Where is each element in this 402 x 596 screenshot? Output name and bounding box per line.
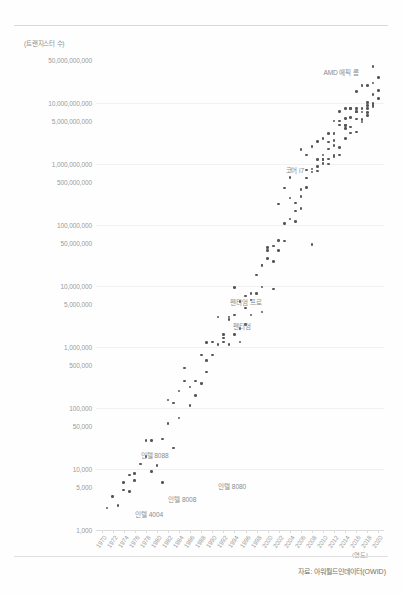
data-point: [300, 195, 303, 198]
data-point: [361, 111, 364, 114]
data-point: [189, 386, 192, 389]
tick-mark: [290, 530, 291, 533]
data-point: [128, 490, 131, 493]
data-point: [228, 343, 231, 346]
data-point: [355, 111, 358, 114]
data-point: [106, 507, 109, 510]
x-axis-tick-label: 2006: [293, 534, 306, 549]
data-point: [333, 120, 336, 123]
chart-annotation: 펜티엄: [233, 321, 251, 331]
data-point: [233, 333, 236, 336]
x-axis-tick-label: 1974: [116, 534, 129, 549]
data-point: [283, 187, 286, 190]
data-point: [311, 243, 314, 246]
data-point: [327, 132, 330, 135]
tick-mark: [356, 530, 357, 533]
tick-mark: [135, 530, 136, 533]
data-point: [366, 107, 369, 110]
x-axis-tick-label: 2000: [260, 534, 273, 549]
data-point: [311, 145, 314, 148]
data-point: [294, 210, 297, 213]
data-point: [372, 104, 375, 107]
data-point: [366, 114, 369, 117]
data-point: [333, 132, 336, 135]
data-point: [272, 260, 275, 263]
gridline: [96, 103, 384, 104]
data-point: [377, 89, 380, 92]
data-point: [377, 76, 380, 79]
data-point: [194, 380, 197, 383]
data-point: [300, 207, 303, 210]
data-point: [349, 132, 352, 135]
data-point: [189, 404, 192, 407]
data-point: [255, 274, 258, 277]
data-point: [355, 118, 358, 121]
tick-mark: [201, 530, 202, 533]
chart-annotation: 인텔 4004: [135, 509, 163, 519]
data-point: [172, 402, 175, 405]
data-point: [167, 422, 170, 425]
footer-divider: [14, 556, 388, 557]
x-axis-tick-label: 2016: [349, 534, 362, 549]
y-axis-tick-label: 50,000: [73, 423, 92, 430]
tick-mark: [223, 530, 224, 533]
data-point: [222, 341, 225, 344]
data-point: [361, 84, 364, 87]
tick-mark: [257, 530, 258, 533]
x-axis-tick-label: 2012: [326, 534, 339, 549]
data-point: [338, 120, 341, 123]
x-axis-tick-labels: 1970197219741976197819801982198419861988…: [96, 530, 384, 570]
data-point: [333, 139, 336, 142]
tick-mark: [345, 530, 346, 533]
data-point: [277, 239, 280, 242]
x-axis-tick-label: 1994: [227, 534, 240, 549]
y-axis-tick-label: 500,000,000: [57, 179, 92, 186]
tick-mark: [367, 530, 368, 533]
data-point: [322, 154, 325, 157]
chart-page: (트랜지스터 수) 50,000,000,00010,000,000,0005,…: [0, 0, 402, 596]
x-axis-tick-label: 1970: [94, 534, 107, 549]
data-point: [194, 394, 197, 397]
tick-mark: [190, 530, 191, 533]
data-point: [311, 168, 314, 171]
data-point: [128, 474, 131, 477]
data-point: [316, 165, 319, 168]
tick-mark: [179, 530, 180, 533]
data-point: [272, 245, 275, 248]
y-axis-tick-label: 100,000,000: [57, 221, 92, 228]
data-point: [172, 447, 175, 450]
x-axis-tick-label: 2002: [271, 534, 284, 549]
y-axis-tick-label: 50,000,000,000: [48, 57, 92, 64]
data-point: [372, 82, 375, 85]
data-point: [316, 140, 319, 143]
y-axis-title: (트랜지스터 수): [24, 38, 64, 48]
gridline: [96, 469, 384, 470]
chart-annotation: 인텔 8088: [141, 450, 169, 460]
data-point: [145, 439, 148, 442]
x-axis-tick-label: 1976: [127, 534, 140, 549]
gridline: [96, 408, 384, 409]
data-point: [205, 359, 208, 362]
tick-mark: [234, 530, 235, 533]
tick-mark: [157, 530, 158, 533]
y-axis-tick-label: 500,000: [69, 362, 92, 369]
data-point: [333, 155, 336, 158]
data-point: [178, 390, 181, 393]
x-axis-tick-label: 1980: [149, 534, 162, 549]
data-point: [327, 148, 330, 151]
tick-mark: [312, 530, 313, 533]
data-point: [338, 146, 341, 149]
data-point: [211, 354, 214, 357]
data-point: [338, 154, 341, 157]
data-point: [305, 186, 308, 189]
data-point: [333, 144, 336, 147]
tick-mark: [323, 530, 324, 533]
tick-mark: [168, 530, 169, 533]
data-point: [200, 354, 203, 357]
data-point: [261, 311, 264, 314]
data-point: [322, 158, 325, 161]
data-point: [261, 264, 264, 267]
y-axis-tick-label: 5,000,000: [64, 301, 92, 308]
tick-mark: [334, 530, 335, 533]
data-point: [361, 118, 364, 121]
